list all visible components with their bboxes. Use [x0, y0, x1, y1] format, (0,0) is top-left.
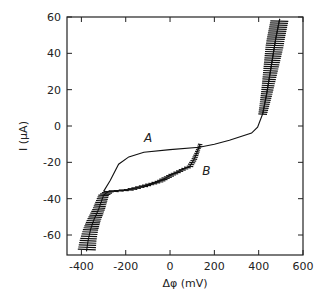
x-tick-label: -200 [113, 260, 138, 273]
series-b-line [87, 144, 201, 251]
series-upper-hatched-branch-hatch-mark [258, 114, 267, 115]
y-tick-label: 20 [47, 84, 61, 97]
y-tick-label: 0 [54, 120, 61, 133]
plot-frame [67, 17, 303, 255]
series-group [78, 19, 288, 252]
series-upper-hatched-branch-hatching [258, 21, 288, 115]
x-tick-label: 200 [204, 260, 225, 273]
x-tick-label: -400 [69, 260, 94, 273]
y-tick-label: -20 [43, 156, 61, 169]
series-a-line [104, 19, 280, 192]
series-b-hatching [78, 144, 203, 250]
x-axis-title: Δφ (mV) [162, 277, 207, 290]
x-tick-label: 600 [293, 260, 314, 273]
x-tick-label: 0 [167, 260, 174, 273]
iv-chart: -400-2000200400600 6040200-20-40-60 Δφ (… [0, 0, 327, 300]
x-axis: -400-2000200400600 [69, 17, 314, 273]
x-tick-label: 400 [248, 260, 269, 273]
curve-label-b: B [202, 164, 210, 178]
y-tick-label: -60 [43, 229, 61, 242]
y-tick-label: 40 [47, 47, 61, 60]
y-tick-label: 60 [47, 11, 61, 24]
y-axis-title: I (µA) [17, 121, 30, 151]
y-axis: 6040200-20-40-60 [43, 11, 303, 242]
curve-label-a: A [143, 131, 152, 145]
y-tick-label: -40 [43, 193, 61, 206]
